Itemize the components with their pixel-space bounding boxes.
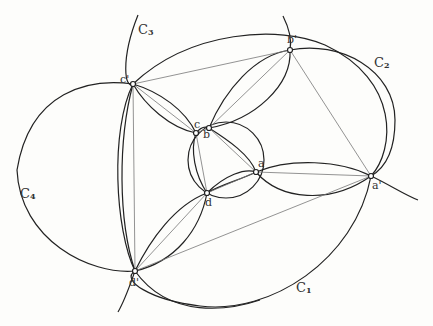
line-aprime-a [256, 172, 371, 176]
label-c2: C2 [374, 55, 390, 70]
label-c-prime: c' [120, 73, 129, 86]
line-dprime-cprime [133, 84, 135, 271]
point-a [254, 170, 259, 175]
label-a: a [258, 157, 265, 170]
line-b-a [209, 128, 256, 172]
point-d [205, 191, 210, 196]
point-a-prime [369, 174, 374, 179]
line-aprime-dprime [135, 176, 371, 271]
label-a-prime: a' [372, 179, 382, 192]
geometry-diagram: c' b' a' d' c b a d C3 C2 C4 C1 [0, 0, 433, 326]
label-b-prime: b' [287, 33, 297, 46]
label-b: b [203, 128, 210, 141]
line-dprime-d [135, 193, 207, 271]
line-cprime-bprime [133, 50, 290, 84]
point-b-prime [288, 48, 293, 53]
point-c-prime [131, 82, 136, 87]
label-d-prime: d' [129, 276, 139, 289]
inner-circle [188, 122, 264, 198]
label-d: d [205, 196, 212, 209]
line-bprime-aprime [290, 50, 371, 176]
line-cprime-c [133, 84, 196, 133]
line-bprime-b [209, 50, 290, 128]
point-d-prime [133, 269, 138, 274]
point-c [194, 131, 199, 136]
circle-c3 [122, 15, 260, 308]
label-c1: C1 [296, 280, 312, 295]
label-c: c [194, 118, 200, 131]
label-c4: C4 [20, 186, 36, 201]
label-c3: C3 [138, 22, 154, 37]
